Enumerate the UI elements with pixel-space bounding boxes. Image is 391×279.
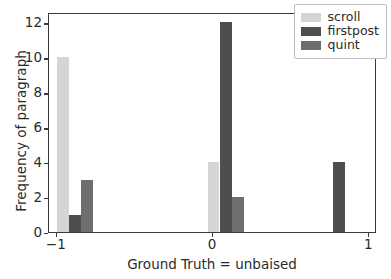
y-tick-mark	[44, 93, 48, 94]
bar	[81, 180, 93, 232]
y-tick-mark	[44, 163, 48, 164]
y-tick-mark	[44, 23, 48, 24]
x-tick-label: 1	[364, 238, 373, 252]
legend-item: quint	[301, 39, 379, 52]
bar	[232, 197, 244, 232]
bar	[208, 162, 220, 232]
x-tick-label: −1	[46, 238, 66, 252]
legend-swatch	[301, 27, 321, 36]
legend-label: quint	[328, 39, 360, 52]
bar	[57, 57, 69, 232]
legend-label: scroll	[328, 11, 361, 24]
y-axis-label-wrap: Frequency of paragraph	[14, 13, 15, 233]
x-tick-label: 0	[208, 238, 217, 252]
x-axis-label: Ground Truth = unbaised	[48, 256, 376, 272]
legend-swatch	[301, 41, 321, 50]
y-tick-mark	[44, 58, 48, 59]
y-tick-label: 2	[33, 191, 42, 205]
bar	[69, 215, 81, 232]
bar	[333, 162, 345, 232]
y-tick-mark	[44, 198, 48, 199]
y-tick-mark	[44, 128, 48, 129]
bar	[220, 22, 232, 232]
legend-swatch	[301, 13, 321, 22]
chart-legend: scrollfirstpostquint	[294, 4, 387, 59]
chart-figure: 024681012 −101 Ground Truth = unbaised F…	[0, 0, 391, 279]
legend-label: firstpost	[328, 25, 379, 38]
y-tick-label: 6	[33, 121, 42, 135]
y-tick-mark	[44, 233, 48, 234]
y-tick-label: 4	[33, 156, 42, 170]
y-tick-label: 0	[33, 226, 42, 240]
legend-item: scroll	[301, 11, 379, 24]
y-tick-label: 8	[33, 87, 42, 101]
legend-item: firstpost	[301, 25, 379, 38]
y-axis-label: Frequency of paragraph	[13, 21, 29, 241]
